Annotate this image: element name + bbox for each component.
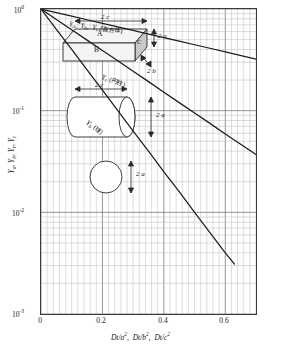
curve-layer [41, 9, 256, 314]
y-tick-1e0: 100 [0, 4, 24, 15]
sphere-dim-diameter: 2 a [136, 170, 145, 178]
diffusion-chart-figure: 100 10-1 10-2 10-3 Ya, Yb, Yr, Yc [0, 0, 281, 346]
prism-jp-text: (直方体) [100, 24, 124, 34]
curve-cylinder [41, 9, 256, 155]
x-tick-0: 0 [20, 316, 60, 325]
prism-dim-depth: 2 b [147, 67, 156, 75]
prism-face-c-label: C [137, 38, 141, 45]
x-tick-0-6: 0.6 [204, 316, 244, 325]
x-tick-0-2: 0.2 [81, 316, 121, 325]
cylinder-dim-length: 2 c [95, 81, 103, 89]
prism-dim-height: 2 a [158, 32, 167, 40]
cylinder-dim-diameter: 2 a [156, 111, 165, 119]
plot-area: A B C 2 c 2 a 2 b 2 c 2 a 2 a Ya, Yb, Yc… [40, 8, 257, 315]
prism-face-b-label: B [94, 45, 99, 54]
x-tick-0-4: 0.4 [143, 316, 183, 325]
y-axis-title: Ya, Yb, Yr, Yc [7, 105, 16, 205]
x-axis-title: Dt/a2, Dt/b2, Dt/c2 [0, 331, 281, 342]
y-tick-1e-2: 10-2 [0, 207, 24, 218]
prism-dim-width: 2 c [101, 13, 109, 21]
